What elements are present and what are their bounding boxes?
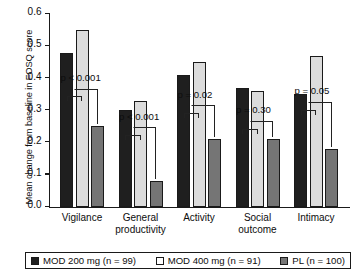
plot-area: 0.00.10.20.30.40.50.6 p < 0.001p < 0.001… <box>49 14 350 208</box>
significance-bracket-outer <box>191 105 214 137</box>
bar <box>119 110 132 206</box>
y-axis-tick-label: 0.1 <box>28 167 42 178</box>
y-axis-tick-label: 0.6 <box>28 6 42 17</box>
filled-black-swatch <box>31 257 39 265</box>
legend-item-label: MOD 400 mg (n = 91) <box>168 255 261 266</box>
bar <box>91 126 104 206</box>
chart-legend: MOD 200 mg (n = 99)MOD 400 mg (n = 91)PL… <box>25 252 351 269</box>
legend-item[interactable]: MOD 400 mg (n = 91) <box>156 255 261 266</box>
bar <box>208 139 221 206</box>
y-axis-tick-label: 0.2 <box>28 135 42 146</box>
category-label-line: outcome <box>216 224 300 236</box>
x-axis-category-label: Intimacy <box>274 212 356 224</box>
y-axis-tick: 0.0 <box>45 206 50 207</box>
p-value-annotation: p < 0.001 <box>119 111 159 122</box>
p-value-annotation: p = 0.02 <box>178 89 213 100</box>
y-axis-tick: 0.1 <box>45 173 50 174</box>
legend-item[interactable]: MOD 200 mg (n = 99) <box>31 255 136 266</box>
y-axis-tick-label: 0.5 <box>28 38 42 49</box>
bar <box>267 139 280 206</box>
legend-item[interactable]: PL (n = 100) <box>280 255 345 266</box>
significance-bracket-outer <box>250 121 273 138</box>
category-label-line: productivity <box>99 224 183 236</box>
p-value-annotation: p < 0.001 <box>61 72 101 83</box>
y-axis-tick: 0.2 <box>45 141 50 142</box>
p-value-annotation: p = 0.30 <box>236 104 271 115</box>
y-axis-tick-label: 0.3 <box>28 103 42 114</box>
legend-item-label: PL (n = 100) <box>292 255 345 266</box>
open-white-swatch <box>156 257 164 265</box>
y-axis-line <box>49 14 50 208</box>
y-axis-tick: 0.3 <box>45 109 50 110</box>
y-axis-tick-label: 0.4 <box>28 71 42 82</box>
y-axis-tick: 0.5 <box>45 45 50 46</box>
filled-gray-swatch <box>280 257 288 265</box>
bar <box>150 181 163 207</box>
significance-bracket-outer <box>308 102 331 147</box>
legend-item-label: MOD 200 mg (n = 99) <box>43 255 136 266</box>
x-axis-line <box>49 207 350 208</box>
bar <box>325 149 338 207</box>
significance-bracket-outer <box>133 127 156 179</box>
y-axis-tick: 0.4 <box>45 77 50 78</box>
category-label-line: Intimacy <box>274 212 356 224</box>
p-value-annotation: p = 0.05 <box>295 85 330 96</box>
significance-bracket-outer <box>74 89 97 125</box>
y-axis-tick-label: 0.0 <box>28 199 42 210</box>
fosq-bar-chart-figure: Mean change from baseline in FOSQ score … <box>0 0 356 275</box>
y-axis-tick: 0.6 <box>45 13 50 14</box>
